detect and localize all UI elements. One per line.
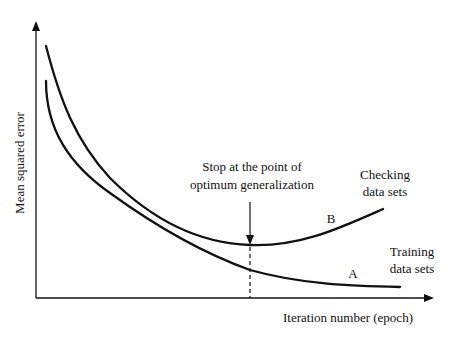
diagram: Mean squared error Iteration number (epo… [0, 0, 450, 337]
stop-annotation-line1: Stop at the point of [202, 159, 302, 174]
training-label-line2: data sets [390, 261, 434, 276]
checking-label-line1: Checking [360, 167, 410, 182]
y-axis-label: Mean squared error [12, 111, 27, 213]
stop-annotation-line2: optimum generalization [190, 177, 314, 192]
stop-marker [246, 202, 254, 298]
training-label-line1: Training [390, 244, 435, 259]
checking-label-line2: data sets [363, 184, 407, 199]
y-axis-arrow-icon [32, 21, 40, 31]
down-arrow-icon [246, 235, 254, 245]
y-axis [32, 21, 40, 298]
x-axis [36, 294, 434, 302]
x-axis-label: Iteration number (epoch) [283, 310, 413, 325]
curve-a-letter: A [348, 266, 358, 281]
x-axis-arrow-icon [424, 294, 434, 302]
curve-b-letter: B [327, 211, 336, 226]
